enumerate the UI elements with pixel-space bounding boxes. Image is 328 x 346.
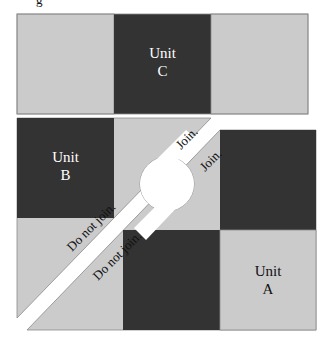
- top-strip: Unit C: [17, 14, 308, 114]
- quilt-joining-diagram: g Unit C Unit B Unit A Join. Join. Do no…: [0, 0, 328, 346]
- top-right-light-block: [211, 14, 308, 114]
- figure-label: g: [36, 0, 43, 7]
- unit-a-block: [220, 230, 316, 330]
- unit-c-label-line2: C: [157, 63, 167, 79]
- unit-a-label-line2: A: [263, 281, 274, 297]
- upper-right-dark-block: [220, 130, 316, 230]
- unit-b-label-line2: B: [60, 167, 70, 183]
- unit-c-label-line1: Unit: [149, 45, 177, 61]
- join-point-fill: [140, 157, 194, 211]
- top-left-light-block: [17, 14, 114, 114]
- unit-b-label-line1: Unit: [52, 149, 80, 165]
- unit-a-label-line1: Unit: [255, 263, 283, 279]
